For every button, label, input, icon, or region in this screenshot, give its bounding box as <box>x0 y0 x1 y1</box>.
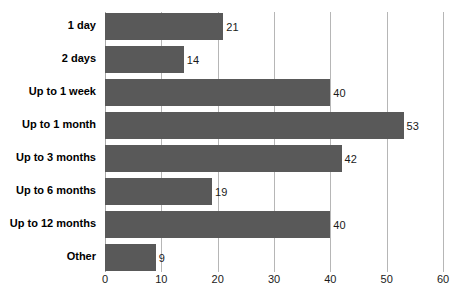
bar-row: 9 <box>105 244 443 271</box>
category-label: Up to 12 months <box>10 210 96 237</box>
category-label: Up to 1 month <box>22 111 96 138</box>
bar-value-label: 53 <box>404 120 419 131</box>
tick-label-60: 60 <box>437 274 449 285</box>
bars: 21 14 40 53 42 19 <box>105 12 443 272</box>
bar-value-label: 40 <box>330 87 345 98</box>
bar <box>105 13 223 40</box>
tick-label-10: 10 <box>155 274 167 285</box>
bar <box>105 244 156 271</box>
tick-label-50: 50 <box>381 274 393 285</box>
gridline-60 <box>443 12 444 272</box>
bar <box>105 79 330 106</box>
bar-row: 21 <box>105 13 443 40</box>
category-label: Up to 1 week <box>29 78 96 105</box>
value-axis-labels: 0 10 20 30 40 50 60 <box>0 274 466 294</box>
bar <box>105 178 212 205</box>
tick-label-20: 20 <box>212 274 224 285</box>
category-label: Up to 3 months <box>16 144 96 171</box>
tick-label-30: 30 <box>268 274 280 285</box>
bar-value-label: 40 <box>330 219 345 230</box>
bar-row: 40 <box>105 211 443 238</box>
bar-value-label: 42 <box>342 153 357 164</box>
tick-label-40: 40 <box>324 274 336 285</box>
bar-row: 19 <box>105 178 443 205</box>
bar <box>105 145 342 172</box>
bar-row: 14 <box>105 46 443 73</box>
bar <box>105 211 330 238</box>
bar-row: 40 <box>105 79 443 106</box>
category-axis-labels: 1 day 2 days Up to 1 week Up to 1 month … <box>0 12 101 272</box>
bar-value-label: 9 <box>156 252 165 263</box>
bar <box>105 112 404 139</box>
category-label: Other <box>67 243 96 270</box>
bar-value-label: 19 <box>212 186 227 197</box>
category-label: 1 day <box>68 12 96 39</box>
bar-value-label: 14 <box>184 54 199 65</box>
bar-row: 53 <box>105 112 443 139</box>
tick-label-0: 0 <box>102 274 108 285</box>
category-label: Up to 6 months <box>16 177 96 204</box>
bar <box>105 46 184 73</box>
bar-chart: 1 day 2 days Up to 1 week Up to 1 month … <box>0 0 466 300</box>
bar-value-label: 21 <box>223 21 238 32</box>
bar-row: 42 <box>105 145 443 172</box>
category-label: 2 days <box>62 45 96 72</box>
plot-area: 21 14 40 53 42 19 <box>105 12 443 272</box>
